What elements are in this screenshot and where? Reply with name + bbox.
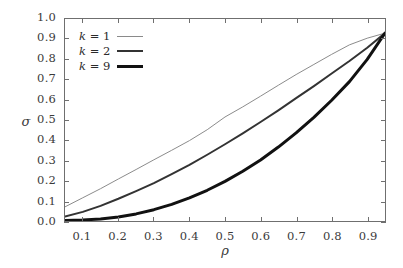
y-tick-mark — [64, 18, 69, 19]
x-tick-label: 0.8 — [312, 229, 352, 243]
x-tick-mark — [332, 217, 333, 222]
x-tick-mark — [189, 217, 190, 222]
x-tick-mark — [261, 217, 262, 222]
y-tick-mark — [64, 120, 69, 121]
legend-item-k-1: k = 1 — [79, 29, 143, 43]
legend-line-sample — [117, 50, 143, 52]
x-tick-mark — [82, 18, 83, 23]
y-tick-mark — [64, 100, 69, 101]
y-tick-mark — [64, 181, 69, 182]
y-tick-mark — [381, 181, 386, 182]
x-tick-mark — [153, 18, 154, 23]
x-tick-mark — [332, 18, 333, 23]
y-tick-mark — [64, 79, 69, 80]
x-tick-mark — [82, 217, 83, 222]
x-tick-mark — [225, 217, 226, 222]
x-tick-mark — [118, 217, 119, 222]
x-tick-mark — [261, 18, 262, 23]
y-tick-mark — [64, 161, 69, 162]
x-tick-mark — [153, 217, 154, 222]
y-tick-label: 0.8 — [22, 51, 56, 65]
y-tick-mark — [381, 202, 386, 203]
y-tick-label: 0.0 — [22, 214, 56, 228]
legend-line-sample — [117, 36, 143, 37]
legend-line-sample — [117, 65, 143, 68]
y-tick-mark — [381, 59, 386, 60]
y-tick-mark — [381, 79, 386, 80]
x-tick-label: 0.3 — [133, 229, 173, 243]
legend-item-k-2: k = 2 — [79, 44, 143, 58]
x-tick-label: 0.6 — [241, 229, 281, 243]
legend-item-label: k = 2 — [79, 44, 110, 58]
y-tick-mark — [64, 140, 69, 141]
chart-figure: 0.00.10.20.30.40.50.60.70.80.91.0 σ 0.10… — [0, 0, 403, 268]
y-tick-label: 0.3 — [22, 153, 56, 167]
y-tick-mark — [381, 161, 386, 162]
y-tick-mark — [64, 222, 69, 223]
y-tick-label: 0.4 — [22, 132, 56, 146]
x-tick-mark — [118, 18, 119, 23]
y-tick-mark — [381, 120, 386, 121]
x-tick-label: 0.1 — [62, 229, 102, 243]
x-tick-mark — [189, 18, 190, 23]
y-tick-label: 0.9 — [22, 30, 56, 44]
x-tick-label: 0.4 — [169, 229, 209, 243]
x-tick-mark — [225, 18, 226, 23]
x-tick-mark — [297, 18, 298, 23]
x-tick-label: 0.9 — [348, 229, 388, 243]
y-tick-mark — [381, 18, 386, 19]
y-tick-label: 0.7 — [22, 71, 56, 85]
x-tick-mark — [368, 18, 369, 23]
plot-area: k = 1k = 2k = 9 — [64, 18, 386, 222]
chart-legend: k = 1k = 2k = 9 — [79, 29, 143, 73]
y-tick-mark — [381, 38, 386, 39]
y-tick-label: 0.1 — [22, 194, 56, 208]
legend-item-k-9: k = 9 — [79, 59, 143, 73]
x-tick-label: 0.2 — [98, 229, 138, 243]
x-tick-mark — [297, 217, 298, 222]
y-tick-mark — [64, 202, 69, 203]
legend-item-label: k = 9 — [79, 59, 110, 73]
x-axis-title: ρ — [205, 243, 245, 258]
x-tick-label: 0.7 — [277, 229, 317, 243]
y-tick-mark — [381, 222, 386, 223]
y-tick-label: 0.6 — [22, 92, 56, 106]
y-tick-label: 0.2 — [22, 173, 56, 187]
legend-item-label: k = 1 — [79, 29, 110, 43]
x-tick-mark — [368, 217, 369, 222]
y-axis-title: σ — [18, 114, 34, 129]
x-tick-label: 0.5 — [205, 229, 245, 243]
y-tick-mark — [381, 140, 386, 141]
y-tick-mark — [64, 59, 69, 60]
y-tick-mark — [64, 38, 69, 39]
y-tick-label: 1.0 — [22, 10, 56, 24]
y-tick-mark — [381, 100, 386, 101]
